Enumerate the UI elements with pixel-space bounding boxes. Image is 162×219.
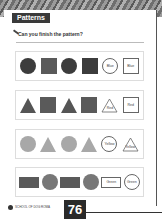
- circle-shape: [61, 136, 77, 152]
- publisher-logo-icon: [8, 205, 13, 210]
- circle-shape: [61, 58, 77, 74]
- page-title: Patterns: [12, 13, 50, 23]
- answer-square-outline[interactable]: Blue: [123, 58, 139, 74]
- page-number: 76: [64, 200, 86, 219]
- pattern-row-yellow: Yellow Yellow: [15, 129, 144, 159]
- square-shape: [81, 97, 97, 113]
- circle-shape: [20, 58, 36, 74]
- circle-shape: [42, 174, 58, 190]
- circle-shape: [83, 174, 99, 190]
- publisher-name: SCHOOL OF DOG ROMA: [15, 205, 50, 209]
- square-shape: [82, 58, 98, 74]
- answer-triangle-outline[interactable]: Red: [101, 98, 118, 113]
- answer-triangle-outline[interactable]: Yellow: [122, 137, 139, 152]
- answer-circle-outline[interactable]: Green: [124, 174, 140, 190]
- answer-rectangle-outline[interactable]: Green: [101, 177, 121, 188]
- pattern-row-green: Green Green: [15, 167, 144, 197]
- square-shape: [41, 58, 57, 74]
- answer-circle-outline[interactable]: Blue: [102, 58, 118, 74]
- triangle-shape: [20, 98, 36, 113]
- triangle-shape: [40, 137, 56, 152]
- pattern-row-red: Red Red: [15, 90, 144, 120]
- circle-shape: [20, 136, 36, 152]
- instruction-text: Can you finish the pattern?: [18, 31, 83, 37]
- rectangle-shape: [60, 177, 80, 188]
- triangle-shape: [81, 137, 97, 152]
- triangle-shape: [61, 98, 77, 113]
- answer-circle-outline[interactable]: Yellow: [101, 136, 117, 152]
- divider: [16, 42, 144, 43]
- pattern-row-blue: Blue Blue: [15, 51, 144, 81]
- answer-square-outline[interactable]: Red: [123, 97, 139, 113]
- rectangle-shape: [19, 177, 39, 188]
- square-shape: [40, 97, 56, 113]
- footer-rule: [80, 212, 162, 213]
